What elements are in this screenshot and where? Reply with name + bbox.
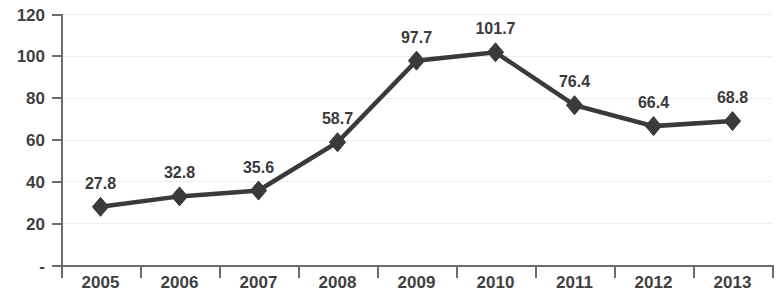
x-tick-label-2006: 2006 bbox=[161, 273, 199, 292]
y-tick-label-40: 40 bbox=[26, 173, 45, 192]
line-chart: -204060801001202005200620072008200920102… bbox=[0, 0, 777, 293]
data-label-2008: 58.7 bbox=[322, 110, 353, 127]
data-label-2010: 101.7 bbox=[475, 20, 515, 37]
x-tick-label-2010: 2010 bbox=[477, 273, 515, 292]
data-point-marker-2006[interactable] bbox=[171, 187, 187, 206]
x-tick-label-2012: 2012 bbox=[635, 273, 673, 292]
data-label-2007: 35.6 bbox=[243, 159, 274, 176]
data-label-2005: 27.8 bbox=[85, 175, 116, 192]
x-tick-label-2009: 2009 bbox=[398, 273, 436, 292]
y-tick-label-120: 120 bbox=[17, 6, 45, 25]
x-tick-label-2007: 2007 bbox=[240, 273, 278, 292]
data-point-marker-2013[interactable] bbox=[724, 112, 740, 131]
y-tick-label-20: 20 bbox=[26, 215, 45, 234]
x-tick-label-2011: 2011 bbox=[556, 273, 593, 292]
data-label-2009: 97.7 bbox=[401, 29, 432, 46]
data-label-2012: 66.4 bbox=[638, 94, 669, 111]
data-label-2011: 76.4 bbox=[559, 73, 590, 90]
data-point-marker-2007[interactable] bbox=[250, 181, 266, 200]
data-point-marker-2010[interactable] bbox=[487, 43, 503, 62]
y-tick-label-0: - bbox=[39, 257, 45, 276]
x-tick-label-2013: 2013 bbox=[714, 273, 752, 292]
data-point-marker-2005[interactable] bbox=[92, 197, 108, 216]
data-point-marker-2012[interactable] bbox=[645, 117, 661, 136]
y-tick-label-60: 60 bbox=[26, 131, 45, 150]
x-tick-label-2008: 2008 bbox=[319, 273, 357, 292]
data-label-2013: 68.8 bbox=[717, 89, 748, 106]
x-tick-label-2005: 2005 bbox=[82, 273, 120, 292]
data-label-2006: 32.8 bbox=[164, 164, 195, 181]
y-tick-label-80: 80 bbox=[26, 89, 45, 108]
chart-canvas: -204060801001202005200620072008200920102… bbox=[0, 0, 777, 293]
y-tick-label-100: 100 bbox=[17, 47, 45, 66]
series-line bbox=[101, 52, 733, 207]
